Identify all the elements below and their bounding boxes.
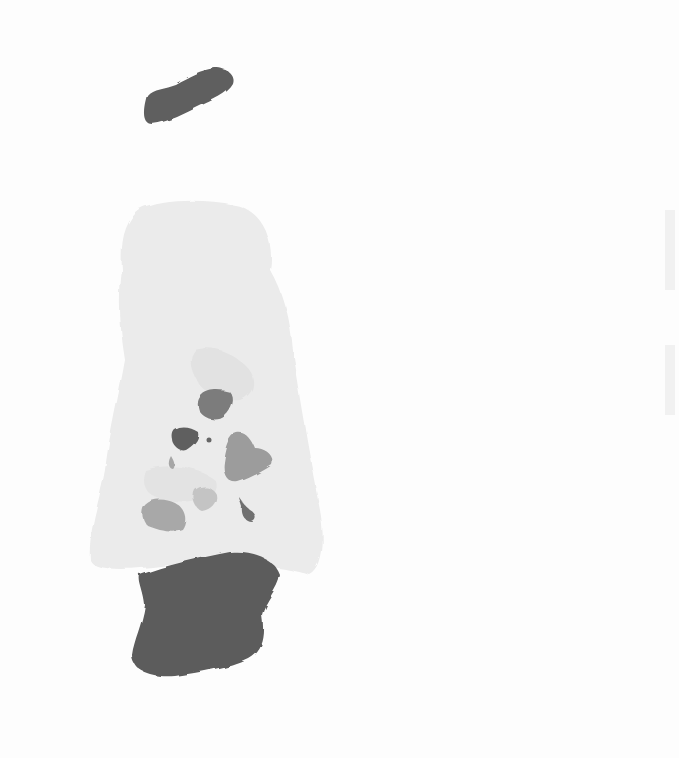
painting-canvas <box>0 0 679 758</box>
bleed-through-mark <box>665 345 675 415</box>
bleed-through-mark <box>665 210 675 290</box>
dot-blot <box>207 438 212 443</box>
bottom-dark-blob <box>132 552 280 677</box>
top-dark-blob <box>144 68 234 124</box>
